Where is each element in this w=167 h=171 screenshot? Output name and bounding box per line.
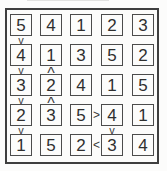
cell-r3c4: 1 (101, 74, 123, 96)
cell-r4c4: 4 (101, 104, 123, 126)
chevron-down-symbol-r2c1-r3c1: v (10, 66, 32, 74)
cell-r2c5: 2 (132, 44, 154, 66)
greater-than-symbol-r4c3-r4c4: > (92, 104, 101, 126)
cell-r1c1: 5 (10, 14, 32, 36)
chevron-down-symbol-r4c1-r5c1: v (10, 126, 32, 134)
cell-r3c3: 4 (70, 74, 92, 96)
cell-r5c1: 1 (10, 134, 32, 156)
cell-r5c2: 5 (40, 134, 62, 156)
chevron-up-symbol-r2c2-r3c2: ^ (40, 70, 62, 78)
top-edge-artifact-line (27, 0, 109, 1)
chevron-down-symbol-r1c1-r2c1: v (10, 36, 32, 44)
cell-r5c4: 3 (101, 134, 123, 156)
cell-r5c3: 2 (70, 134, 92, 156)
chevron-down-symbol-r3c1-r4c1: v (10, 96, 32, 104)
cell-r2c2: 1 (40, 44, 62, 66)
cell-r1c3: 1 (70, 14, 92, 36)
chevron-down-symbol-r4c4-r5c4: v (101, 126, 123, 134)
less-than-symbol-r5c3-r5c4: < (92, 134, 101, 156)
cell-r4c1: 2 (10, 104, 32, 126)
chevron-up-symbol-r3c2-r4c2: ^ (40, 100, 62, 108)
cell-r4c3: 5 (70, 104, 92, 126)
futoshiki-puzzle-board: 5 4 1 2 3 4 1 3 5 2 3 2 4 1 5 2 3 5 4 1 … (5, 8, 159, 164)
cell-r2c3: 3 (70, 44, 92, 66)
cell-r1c2: 4 (40, 14, 62, 36)
cell-r4c5: 1 (132, 104, 154, 126)
cell-r3c5: 5 (132, 74, 154, 96)
cell-r2c1: 4 (10, 44, 32, 66)
cell-r2c4: 5 (101, 44, 123, 66)
cell-r3c1: 3 (10, 74, 32, 96)
cell-r1c4: 2 (101, 14, 123, 36)
cell-r1c5: 3 (132, 14, 154, 36)
cell-r5c5: 4 (132, 134, 154, 156)
